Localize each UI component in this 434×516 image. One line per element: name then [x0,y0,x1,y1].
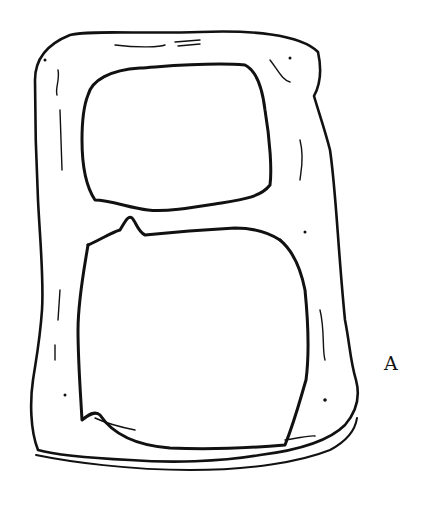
ink-dots [44,57,327,402]
upper-opening [82,64,271,211]
figure-label: A [384,352,398,374]
bridge-notch [88,217,280,245]
artifact-illustration [0,0,434,516]
lower-opening [78,240,308,449]
